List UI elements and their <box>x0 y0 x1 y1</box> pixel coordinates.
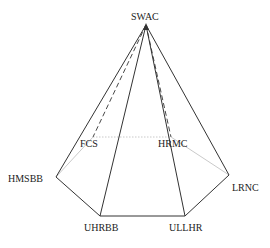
pyramid-diagram: SWAC FCS HRMC HMSBB LRNC UHRBB ULLHR <box>0 0 270 248</box>
edge-apex-lrnc <box>146 25 229 175</box>
base-edge-hmsbb-uhrbb <box>56 177 100 216</box>
vertex-label-lrnc: LRNC <box>232 183 259 193</box>
vertex-label-ullhr: ULLHR <box>169 223 202 233</box>
vertex-label-fcs: FCS <box>80 139 98 149</box>
edge-apex-hmsbb <box>56 25 146 177</box>
vertex-label-hrmc: HRMC <box>158 139 187 149</box>
edge-apex-uhrbb <box>100 25 146 216</box>
hidden-edge-apex-fcs <box>93 25 146 137</box>
edge-apex-ullhr <box>146 25 185 216</box>
vertex-label-hmsbb: HMSBB <box>8 174 43 184</box>
base-edge-ullhr-lrnc <box>185 175 229 216</box>
apex-marker-icon <box>143 23 149 30</box>
vertex-label-swac: SWAC <box>131 12 159 22</box>
vertex-label-uhrbb: UHRBB <box>84 223 118 233</box>
pyramid-drawing <box>0 0 270 248</box>
